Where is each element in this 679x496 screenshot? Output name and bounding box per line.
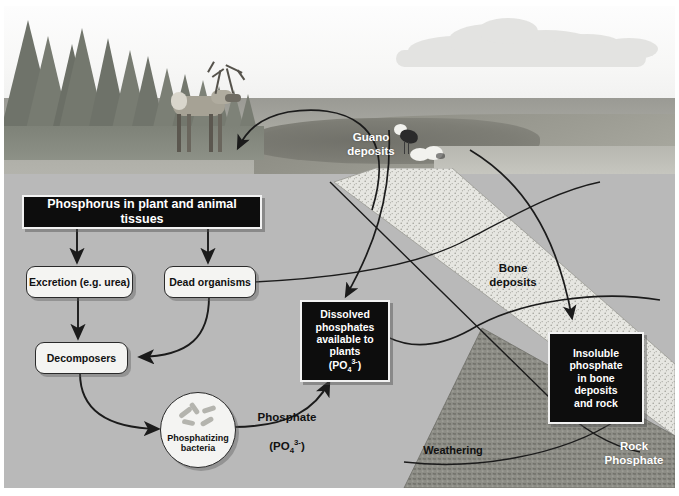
label-guano-deposits: Guano deposits: [334, 131, 408, 158]
label-phosphate-ion: (PO43-): [269, 440, 305, 452]
box-label: Excretion (e.g. urea): [29, 276, 130, 288]
bacteria-icon: [176, 404, 222, 430]
box-label: Dead organisms: [169, 276, 251, 288]
label-weathering: Weathering: [408, 444, 498, 457]
box-label: Decomposers: [47, 352, 116, 364]
box-line-5: and rock: [574, 397, 618, 409]
box-insoluble-phosphate[interactable]: Insoluble phosphate in bone deposits and…: [548, 332, 644, 424]
box-line-3: available to: [316, 333, 373, 345]
box-phosphorus-in-tissues[interactable]: Phosphorus in plant and animal tissues: [22, 195, 262, 229]
box-label: Phosphatizing bacteria: [167, 433, 229, 453]
box-dissolved-phosphates[interactable]: Dissolved phosphates available to plants…: [300, 300, 390, 382]
box-line-2: phosphate: [569, 359, 622, 371]
box-line-4: plants: [330, 345, 361, 357]
arrow-decomposers-to-bacteria: [80, 373, 158, 429]
box-excretion[interactable]: Excretion (e.g. urea): [26, 266, 133, 298]
box-dead-organisms[interactable]: Dead organisms: [164, 266, 256, 298]
phosphorus-cycle-diagram: Phosphorus in plant and animal tissues E…: [0, 0, 679, 496]
label-rock-phosphate: Rock Phosphate: [596, 440, 672, 467]
box-label: Phosphorus in plant and animal tissues: [24, 197, 260, 227]
box-line-3: in bone: [577, 372, 614, 384]
box-line-1: Insoluble: [573, 347, 619, 359]
box-line-2: phosphates: [316, 321, 375, 333]
arrow-weathering-arc: [404, 418, 620, 464]
box-line-4: deposits: [574, 384, 617, 396]
label-bone-deposits: Bone deposits: [478, 262, 548, 289]
box-line-1: Dissolved: [320, 308, 370, 320]
label-phosphate-word: Phosphate: [258, 411, 317, 423]
arrow-to-insoluble-phosphate: [470, 150, 572, 318]
box-formula: (PO43-): [329, 358, 361, 374]
label-phosphate-formula: Phosphate (PO43-): [243, 397, 331, 455]
box-decomposers[interactable]: Decomposers: [35, 342, 128, 374]
arrow-dead-organisms-to-decomposers: [140, 297, 209, 357]
